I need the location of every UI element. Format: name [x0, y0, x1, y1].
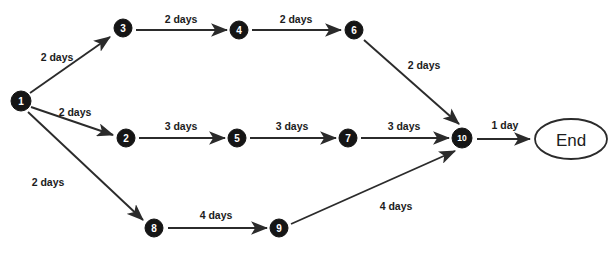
node-6-label: 6 [351, 25, 357, 36]
node-10-label: 10 [457, 133, 467, 143]
edge-line-1-8 [28, 112, 143, 220]
edge-line-9-10 [291, 151, 455, 224]
diagram-canvas: 2 days 2 days 2 days 2 days 2 days 3 day… [0, 0, 611, 253]
edge-label-4-6: 2 days [280, 13, 313, 25]
node-7[interactable]: 7 [339, 129, 357, 147]
edge-label-5-7: 3 days [276, 120, 309, 132]
edge-label-1-3: 2 days [41, 51, 74, 63]
node-9[interactable]: 9 [270, 219, 288, 237]
edge-line-6-10 [364, 40, 459, 124]
network-diagram: 2 days 2 days 2 days 2 days 2 days 3 day… [0, 0, 611, 253]
edge-label-1-8: 2 days [32, 176, 65, 188]
edge-label-2-5: 3 days [165, 120, 198, 132]
edge-label-6-10: 2 days [408, 59, 441, 71]
node-3-label: 3 [120, 23, 126, 34]
node-9-label: 9 [276, 223, 282, 234]
edge-label-8-9: 4 days [200, 209, 233, 221]
node-2[interactable]: 2 [117, 129, 135, 147]
edge-labels-group: 2 days 2 days 2 days 2 days 2 days 3 day… [32, 13, 519, 221]
node-8[interactable]: 8 [145, 219, 163, 237]
node-4[interactable]: 4 [230, 21, 248, 39]
node-4-label: 4 [236, 25, 242, 36]
node-3[interactable]: 3 [114, 19, 132, 37]
node-1[interactable]: 1 [11, 91, 31, 111]
node-end[interactable]: End [535, 119, 607, 159]
node-5[interactable]: 5 [228, 129, 246, 147]
node-6[interactable]: 6 [345, 21, 363, 39]
node-10[interactable]: 10 [452, 128, 472, 148]
edge-label-10-end: 1 day [492, 119, 519, 131]
node-7-label: 7 [345, 133, 351, 144]
edge-label-3-4: 2 days [165, 13, 198, 25]
node-2-label: 2 [123, 133, 129, 144]
node-1-label: 1 [18, 96, 24, 107]
edge-label-1-2: 2 days [59, 106, 92, 118]
edge-label-7-10: 3 days [388, 120, 421, 132]
end-node-label: End [556, 131, 586, 150]
node-8-label: 8 [151, 223, 157, 234]
edge-label-9-10: 4 days [380, 200, 413, 212]
node-5-label: 5 [234, 133, 240, 144]
edge-line-1-3 [30, 37, 110, 93]
